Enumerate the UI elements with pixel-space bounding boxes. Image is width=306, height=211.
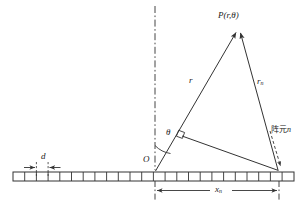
- antenna-array-bar: [13, 172, 294, 181]
- label-distance-rn: rn: [257, 77, 263, 87]
- figure-canvas: P(r,θ) r rn θ O d xn 阵元n: [0, 0, 306, 211]
- label-array-element-n-index: n: [287, 125, 291, 134]
- right-angle-marker: [176, 130, 184, 138]
- ray-rn: [241, 33, 279, 170]
- label-point-p: P(r,θ): [218, 11, 239, 20]
- label-position-xn-subscript: n: [219, 188, 222, 194]
- perpendicular-projection-line: [182, 136, 279, 171]
- label-array-element-n: 阵元n: [271, 126, 291, 134]
- diagram-graphics: [0, 0, 306, 211]
- ray-r: [156, 33, 237, 172]
- label-origin-o: O: [143, 155, 150, 164]
- label-angle-theta: θ: [166, 128, 170, 137]
- label-array-element-n-cjk: 阵元: [271, 125, 287, 134]
- label-distance-rn-subscript: n: [261, 80, 264, 86]
- label-spacing-d: d: [41, 152, 46, 161]
- label-position-xn: xn: [215, 185, 222, 195]
- label-distance-r: r: [189, 76, 193, 85]
